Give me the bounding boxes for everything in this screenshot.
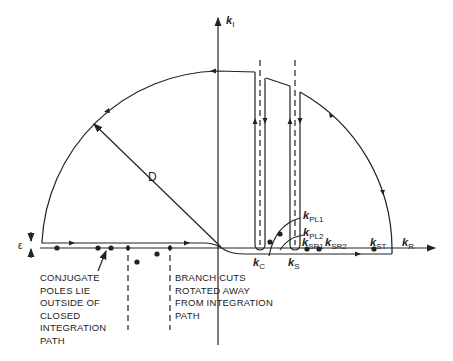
contour-arc-left: [42, 71, 255, 242]
point-kc-label: kC: [253, 256, 265, 271]
branch-cuts-note: BRANCH CUTS ROTATED AWAY FROM INTEGRATIO…: [175, 272, 273, 322]
radius-label: D: [148, 170, 157, 184]
epsilon-label: ε: [18, 240, 22, 251]
point-ks-label: kS: [288, 256, 299, 271]
real-axis-label: kR: [402, 236, 414, 251]
contour-arc-right-1: [266, 78, 290, 86]
point-ksr1-label: kSR1: [302, 236, 324, 251]
conjugate-poles-note: CONJUGATE POLES LIE OUTSIDE OF CLOSED IN…: [40, 272, 106, 347]
contour-arc-right-2: [300, 92, 392, 248]
point-kpl1-label: kPL1: [303, 209, 323, 224]
point-ksr2-label: kSR2: [325, 236, 347, 251]
point-kst-label: kST: [370, 236, 386, 251]
radius-line: [94, 124, 221, 247]
imaginary-axis-label: kI: [226, 14, 234, 29]
